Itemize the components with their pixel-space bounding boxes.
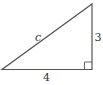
triangle-shape	[2, 4, 92, 70]
right-angle-marker	[85, 62, 93, 70]
triangle-diagram: c 3 4	[0, 0, 103, 85]
vertical-leg-label: 3	[95, 31, 102, 44]
triangle-figure: c 3 4	[0, 0, 103, 85]
horizontal-leg-label: 4	[43, 71, 50, 84]
hypotenuse-label: c	[35, 31, 41, 44]
